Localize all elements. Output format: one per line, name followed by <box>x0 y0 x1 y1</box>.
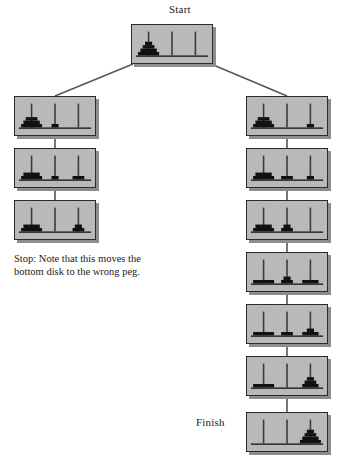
right-node-1 <box>246 96 328 136</box>
start-label: Start <box>169 3 191 15</box>
disk-4 <box>253 228 274 231</box>
peg-3 <box>78 104 80 128</box>
peg-base <box>136 55 208 57</box>
peg-2 <box>54 156 56 180</box>
right-node-4 <box>246 252 328 292</box>
disk-3 <box>302 332 318 335</box>
disk-1 <box>307 124 314 127</box>
peg-2 <box>54 208 56 232</box>
disk-3 <box>302 280 318 283</box>
disk-2 <box>73 228 85 231</box>
disk-3 <box>302 437 318 440</box>
peg-base <box>19 231 91 233</box>
disk-4 <box>253 280 274 283</box>
finish-label: Finish <box>196 416 225 428</box>
disk-4 <box>253 124 274 127</box>
peg-3 <box>310 208 312 232</box>
disk-1 <box>307 430 314 433</box>
right-node-3 <box>246 200 328 240</box>
disk-1 <box>75 225 82 228</box>
disk-3 <box>23 173 39 176</box>
disk-3 <box>23 121 39 124</box>
right-node-6 <box>246 356 328 396</box>
disk-1 <box>307 329 314 332</box>
peg-1 <box>263 312 265 336</box>
right-node-2 <box>246 148 328 188</box>
disk-4 <box>21 228 42 231</box>
disk-2 <box>73 176 85 179</box>
disk-2 <box>305 433 317 436</box>
disk-1 <box>51 124 58 127</box>
stop-annotation: Stop: Note that this moves the bottom di… <box>14 252 146 278</box>
peg-3 <box>195 32 197 56</box>
peg-2 <box>286 156 288 180</box>
disk-4 <box>138 52 159 55</box>
peg-1 <box>263 260 265 284</box>
disk-3 <box>255 173 271 176</box>
disk-1 <box>145 42 152 45</box>
right-node-5 <box>246 304 328 344</box>
disk-2 <box>281 228 293 231</box>
edge-start-to-right <box>211 64 287 96</box>
disk-4 <box>253 384 274 387</box>
peg-base <box>251 283 323 285</box>
disk-2 <box>281 332 293 335</box>
disk-2 <box>258 117 270 120</box>
disk-4 <box>253 332 274 335</box>
left-node-2 <box>14 148 96 188</box>
peg-1 <box>263 420 265 444</box>
start-node <box>131 24 213 64</box>
peg-3 <box>310 260 312 284</box>
hanoi-solution-tree: Start Finish Stop: Note that this moves … <box>0 0 354 466</box>
peg-3 <box>310 156 312 180</box>
disk-2 <box>26 117 38 120</box>
peg-2 <box>286 312 288 336</box>
peg-2 <box>171 32 173 56</box>
peg-base <box>251 179 323 181</box>
peg-2 <box>286 364 288 388</box>
peg-base <box>19 127 91 129</box>
disk-4 <box>253 176 274 179</box>
disk-4 <box>300 440 321 443</box>
disk-3 <box>140 49 156 52</box>
disk-3 <box>255 121 271 124</box>
peg-3 <box>310 104 312 128</box>
disk-4 <box>21 176 42 179</box>
disk-2 <box>143 45 155 48</box>
peg-base <box>251 127 323 129</box>
peg-base <box>251 231 323 233</box>
peg-2 <box>286 104 288 128</box>
disk-1 <box>307 377 314 380</box>
peg-base <box>251 335 323 337</box>
disk-2 <box>281 280 293 283</box>
peg-3 <box>78 156 80 180</box>
peg-1 <box>263 364 265 388</box>
disk-4 <box>21 124 42 127</box>
disk-2 <box>305 381 317 384</box>
disk-3 <box>302 384 318 387</box>
disk-2 <box>281 176 293 179</box>
edge-start-to-left <box>55 64 133 96</box>
disk-1 <box>283 225 290 228</box>
disk-1 <box>307 176 314 179</box>
peg-2 <box>286 420 288 444</box>
peg-2 <box>54 104 56 128</box>
disk-3 <box>255 225 271 228</box>
peg-base <box>251 443 323 445</box>
left-node-1 <box>14 96 96 136</box>
disk-1 <box>51 176 58 179</box>
disk-3 <box>23 225 39 228</box>
peg-base <box>251 387 323 389</box>
disk-1 <box>283 277 290 280</box>
finish-node <box>246 412 328 452</box>
peg-base <box>19 179 91 181</box>
left-node-3 <box>14 200 96 240</box>
